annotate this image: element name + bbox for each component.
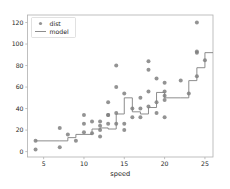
data-point bbox=[114, 85, 118, 89]
data-point bbox=[146, 68, 150, 72]
x-tick-label: 25 bbox=[201, 160, 209, 167]
data-point bbox=[34, 139, 38, 143]
x-tick-label: 5 bbox=[42, 160, 46, 167]
legend-label-dist: dist bbox=[50, 20, 62, 27]
scatter-plot-with-model: 510152025 020406080100120 speed dist mod… bbox=[0, 0, 230, 189]
x-tick-label: 15 bbox=[120, 160, 128, 167]
model-step-line bbox=[36, 53, 213, 141]
data-point bbox=[155, 111, 159, 115]
data-point bbox=[195, 21, 199, 25]
data-point bbox=[163, 94, 167, 98]
data-point bbox=[98, 128, 102, 132]
data-point bbox=[82, 113, 86, 117]
data-point bbox=[195, 74, 199, 78]
data-point bbox=[146, 104, 150, 108]
data-point bbox=[195, 50, 199, 54]
y-tick-label: 0 bbox=[20, 148, 24, 155]
data-point bbox=[122, 92, 126, 96]
y-tick-label: 60 bbox=[16, 83, 24, 90]
chart-legend: dist model bbox=[32, 18, 76, 38]
x-axis-label: speed bbox=[110, 170, 130, 178]
data-point bbox=[74, 139, 78, 143]
data-point bbox=[179, 79, 183, 83]
data-point bbox=[114, 64, 118, 68]
dist-scatter-points bbox=[34, 21, 207, 152]
data-point bbox=[203, 58, 207, 62]
legend-label-model: model bbox=[50, 28, 70, 35]
y-axis-ticks: 020406080100120 bbox=[12, 19, 28, 155]
y-tick-label: 100 bbox=[12, 40, 24, 47]
data-point bbox=[130, 115, 134, 119]
data-point bbox=[106, 122, 110, 126]
figure-container: 510152025 020406080100120 speed dist mod… bbox=[0, 0, 230, 189]
data-point bbox=[155, 76, 159, 80]
data-point bbox=[163, 115, 167, 119]
data-point bbox=[98, 120, 102, 124]
y-tick-label: 80 bbox=[16, 62, 24, 69]
data-point bbox=[114, 122, 118, 126]
data-point bbox=[122, 128, 126, 132]
data-point bbox=[34, 147, 38, 151]
data-point bbox=[82, 122, 86, 126]
y-tick-label: 20 bbox=[16, 126, 24, 133]
data-point bbox=[138, 107, 142, 111]
y-tick-label: 120 bbox=[12, 19, 24, 26]
data-point bbox=[106, 100, 110, 104]
data-point bbox=[82, 130, 86, 134]
data-point bbox=[122, 122, 126, 126]
data-point bbox=[138, 115, 142, 119]
data-point bbox=[146, 59, 150, 63]
data-point bbox=[98, 124, 102, 128]
legend-marker-dist bbox=[39, 22, 42, 25]
model-series bbox=[36, 53, 213, 141]
data-point bbox=[58, 126, 62, 130]
data-point bbox=[106, 113, 110, 117]
data-point bbox=[138, 96, 142, 100]
data-point bbox=[66, 132, 70, 136]
data-point bbox=[155, 100, 159, 104]
data-point bbox=[90, 120, 94, 124]
data-point bbox=[146, 89, 150, 93]
data-point bbox=[114, 111, 118, 115]
y-tick-label: 40 bbox=[16, 105, 24, 112]
data-point bbox=[130, 107, 134, 111]
data-point bbox=[58, 145, 62, 149]
data-point bbox=[163, 98, 167, 102]
data-point bbox=[163, 89, 167, 93]
data-point bbox=[187, 92, 191, 96]
data-point bbox=[163, 81, 167, 85]
x-tick-label: 20 bbox=[161, 160, 169, 167]
data-point bbox=[98, 135, 102, 139]
x-axis-ticks: 510152025 bbox=[42, 157, 209, 167]
x-tick-label: 10 bbox=[80, 160, 88, 167]
data-point bbox=[90, 131, 94, 135]
